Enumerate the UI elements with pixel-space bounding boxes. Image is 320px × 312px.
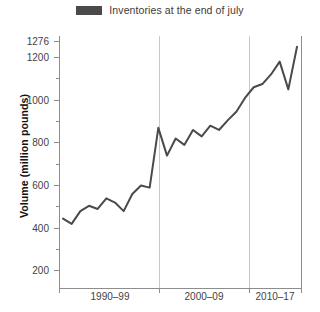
y-tick-label: 200 xyxy=(32,265,49,276)
y-tick-label: 1200 xyxy=(27,52,50,63)
y-tick-label: 800 xyxy=(32,137,49,148)
x-group-label: 2000–09 xyxy=(185,291,224,302)
x-group-label: 1990–99 xyxy=(91,291,130,302)
x-axis-group-labels: 1990–992000–092010–17 xyxy=(91,291,295,302)
y-tick-label: 600 xyxy=(32,180,49,191)
y-tick-label: 1276 xyxy=(27,36,50,47)
chart-container: Inventories at the end of july Volume (m… xyxy=(0,0,320,312)
y-axis-tick-labels: 200400600800100012001276 xyxy=(27,36,50,277)
group-separators xyxy=(159,36,249,288)
y-axis-tick-marks xyxy=(54,41,59,271)
y-tick-label: 400 xyxy=(32,223,49,234)
series-line-inventories xyxy=(63,47,297,224)
plot-area: 200400600800100012001276 1990–992000–092… xyxy=(0,0,320,312)
x-group-label: 2010–17 xyxy=(256,291,295,302)
y-tick-label: 1000 xyxy=(27,95,50,106)
